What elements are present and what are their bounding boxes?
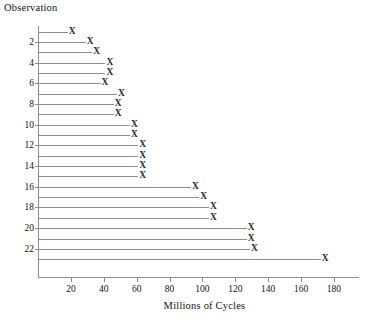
x-tick-mark xyxy=(104,277,105,282)
row-line xyxy=(38,125,130,126)
x-marker: X xyxy=(69,26,76,37)
row-line xyxy=(38,104,114,105)
plot-area: XXXXXXXXXXXXXXXXXXXXXXX 2468101214161820… xyxy=(0,0,365,290)
x-tick-mark xyxy=(202,277,203,282)
y-tick-label: 12 xyxy=(8,140,34,150)
row-line xyxy=(38,73,105,74)
x-tick-mark xyxy=(71,277,72,282)
x-marker: X xyxy=(251,243,258,254)
x-tick-mark xyxy=(137,277,138,282)
y-tick-label: 22 xyxy=(8,244,34,254)
row-line xyxy=(38,187,191,188)
row-line xyxy=(38,207,209,208)
x-tick-label: 80 xyxy=(155,284,185,295)
x-tick-mark xyxy=(170,277,171,282)
x-marker: X xyxy=(102,77,109,88)
y-tick-label: 4 xyxy=(8,58,34,68)
row-line xyxy=(38,63,105,64)
y-tick-mark xyxy=(35,63,38,64)
y-tick-label: 20 xyxy=(8,223,34,233)
x-marker: X xyxy=(322,253,329,264)
x-tick-label: 140 xyxy=(253,284,283,295)
row-line xyxy=(38,166,138,167)
row-line xyxy=(38,135,130,136)
x-tick-mark xyxy=(301,277,302,282)
y-tick-mark xyxy=(35,166,38,167)
x-marker: X xyxy=(248,233,255,244)
x-marker: X xyxy=(139,170,146,181)
x-marker: X xyxy=(139,139,146,150)
x-tick-label: 120 xyxy=(220,284,250,295)
y-tick-mark xyxy=(35,83,38,84)
y-tick-label: 16 xyxy=(8,182,34,192)
x-marker: X xyxy=(139,160,146,171)
y-tick-mark xyxy=(35,104,38,105)
y-tick-label: 8 xyxy=(8,99,34,109)
row-line xyxy=(38,259,321,260)
x-axis-line xyxy=(38,277,359,278)
x-tick-label: 60 xyxy=(122,284,152,295)
x-tick-mark xyxy=(334,277,335,282)
x-marker: X xyxy=(131,119,138,130)
row-line xyxy=(38,83,101,84)
x-tick-mark xyxy=(235,277,236,282)
y-tick-mark xyxy=(35,187,38,188)
x-tick-mark xyxy=(268,277,269,282)
row-line xyxy=(38,239,247,240)
y-tick-mark xyxy=(35,125,38,126)
y-tick-mark xyxy=(35,207,38,208)
x-marker: X xyxy=(118,88,125,99)
row-line xyxy=(38,156,138,157)
y-tick-mark xyxy=(35,249,38,250)
x-marker: X xyxy=(131,129,138,140)
y-tick-label: 14 xyxy=(8,161,34,171)
x-marker: X xyxy=(87,36,94,47)
y-tick-label: 2 xyxy=(8,37,34,47)
x-marker: X xyxy=(115,108,122,119)
x-axis-title-text: Millions of Cycles xyxy=(164,300,246,311)
row-line xyxy=(38,197,199,198)
x-tick-label: 40 xyxy=(89,284,119,295)
row-line xyxy=(38,114,114,115)
x-marker: X xyxy=(93,46,100,57)
row-line xyxy=(38,176,138,177)
x-axis-title: Millions of Cycles xyxy=(0,300,365,311)
x-marker: X xyxy=(248,222,255,233)
x-marker: X xyxy=(210,212,217,223)
x-marker: X xyxy=(200,191,207,202)
y-tick-mark xyxy=(35,145,38,146)
x-tick-label: 180 xyxy=(319,284,349,295)
y-tick-label: 6 xyxy=(8,78,34,88)
x-marker: X xyxy=(115,98,122,109)
x-tick-label: 160 xyxy=(286,284,316,295)
row-line xyxy=(38,94,117,95)
y-tick-label: 18 xyxy=(8,202,34,212)
row-line xyxy=(38,228,247,229)
row-line xyxy=(38,145,138,146)
row-line xyxy=(38,218,209,219)
x-tick-label: 20 xyxy=(56,284,86,295)
row-line xyxy=(38,32,68,33)
x-marker: X xyxy=(139,150,146,161)
x-marker: X xyxy=(106,57,113,68)
row-line xyxy=(38,52,92,53)
x-marker: X xyxy=(192,181,199,192)
dot-plot-chart: Observation XXXXXXXXXXXXXXXXXXXXXXX 2468… xyxy=(0,0,365,336)
x-tick-label: 100 xyxy=(187,284,217,295)
y-tick-mark xyxy=(35,228,38,229)
x-marker: X xyxy=(106,67,113,78)
row-line xyxy=(38,42,86,43)
y-tick-label: 10 xyxy=(8,120,34,130)
y-tick-mark xyxy=(35,42,38,43)
x-marker: X xyxy=(210,201,217,212)
row-line xyxy=(38,249,250,250)
